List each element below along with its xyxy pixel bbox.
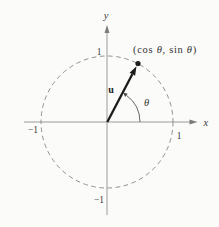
tick-label-left: −1 bbox=[28, 125, 38, 135]
vector-u-arrowhead-icon bbox=[130, 66, 137, 75]
point-label: (cos θ, sin θ) bbox=[133, 44, 197, 56]
vector-u bbox=[107, 74, 132, 122]
point-label-part: ) bbox=[193, 44, 197, 56]
x-axis-arrowhead-icon bbox=[190, 120, 198, 125]
tick-label-bottom: −1 bbox=[94, 195, 104, 205]
angle-label: θ bbox=[144, 97, 149, 108]
point-label-part: (cos bbox=[133, 44, 157, 56]
point-dot bbox=[135, 61, 140, 66]
angle-arc bbox=[126, 95, 140, 122]
point-label-part: , sin bbox=[162, 44, 186, 55]
figure-canvas: y x 1 1 −1 −1 (cos θ, sin θ) u θ bbox=[0, 0, 219, 227]
y-axis-label: y bbox=[103, 10, 109, 21]
y-axis-arrowhead-icon bbox=[105, 25, 110, 33]
tick-label-right: 1 bbox=[177, 131, 182, 141]
tick-label-top: 1 bbox=[97, 47, 102, 57]
x-axis-label: x bbox=[203, 117, 209, 128]
vector-label: u bbox=[108, 84, 114, 95]
